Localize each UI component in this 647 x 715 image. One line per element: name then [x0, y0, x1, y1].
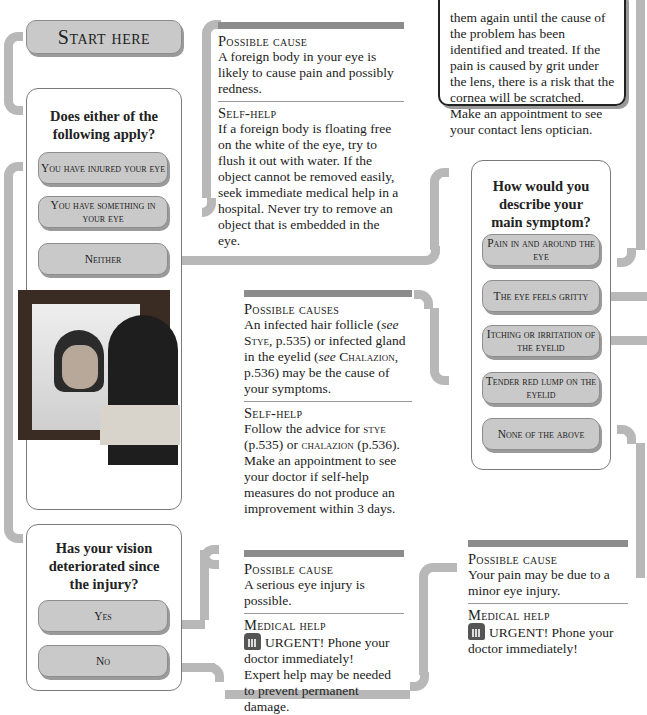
info-heading: Possible cause: [218, 33, 404, 49]
section-bar: [244, 550, 404, 557]
option-itching-eyelid[interactable]: Itching or irritation of the eyelid: [482, 325, 600, 357]
option-no[interactable]: No: [38, 645, 168, 677]
connector: [4, 162, 23, 181]
connector: [608, 336, 647, 345]
telephone-icon: [468, 623, 485, 640]
info-heading: Possible cause: [468, 551, 628, 567]
urgent-text: URGENT! Phone your doctor immediately!: [468, 625, 614, 656]
mirror-photo: [18, 290, 170, 440]
connector: [419, 563, 438, 582]
connector: [4, 50, 13, 100]
connector: [419, 580, 428, 675]
note-text: them again until the cause of the proble…: [450, 2, 616, 138]
question-3-title: Has your vision deteriorated since the i…: [41, 539, 167, 593]
info-text: A foreign body in your eye is likely to …: [218, 49, 404, 97]
connector: [617, 425, 636, 444]
connector: [617, 248, 636, 267]
question-2-title: How would you describe your main symptom…: [482, 177, 600, 231]
info-serious-injury: Possible cause A serious eye injury is p…: [244, 550, 404, 715]
info-text: If a foreign body is floating free on th…: [218, 121, 404, 249]
connector: [175, 256, 425, 265]
option-injured-eye[interactable]: You have injured your eye: [38, 152, 168, 184]
info-text: Your pain may be due to a minor eye inju…: [468, 567, 628, 599]
connector: [437, 563, 457, 572]
connector: [608, 292, 647, 301]
info-text: Follow the advice for stye (p.535) or ch…: [244, 421, 412, 517]
info-heading: Self-help: [244, 405, 412, 421]
urgent-text: URGENT! Phone your doctor immediately!: [244, 635, 390, 666]
connector: [200, 560, 209, 620]
connector: [636, 0, 645, 250]
info-foreign-body: Possible cause A foreign body in your ey…: [218, 22, 404, 249]
option-none-above[interactable]: None of the above: [482, 418, 600, 450]
info-minor-injury: Possible cause Your pain may be due to a…: [468, 540, 628, 657]
section-bar: [468, 540, 628, 547]
connector: [4, 180, 13, 528]
info-heading: Medical help: [244, 617, 404, 633]
connector: [202, 38, 211, 198]
info-stye-chalazion: Possible causes An infected hair follicl…: [244, 290, 412, 517]
connector: [205, 663, 224, 682]
info-heading: Possible cause: [244, 561, 404, 577]
section-bar: [244, 290, 412, 297]
connector: [430, 180, 439, 250]
option-pain-around-eye[interactable]: Pain in and around the eye: [482, 234, 600, 266]
option-tender-lump[interactable]: Tender red lump on the eyelid: [482, 372, 600, 404]
telephone-icon: [244, 633, 261, 650]
connector: [636, 443, 645, 578]
connector: [430, 308, 439, 368]
connector: [202, 198, 216, 217]
option-neither[interactable]: Neither: [38, 243, 168, 275]
info-text: A serious eye injury is possible.: [244, 577, 404, 609]
info-text: Expert help may be needed to prevent per…: [244, 667, 404, 715]
question-1-title: Does either of the following apply?: [41, 107, 167, 143]
connector: [4, 32, 23, 51]
section-bar: [218, 22, 404, 29]
start-here-button[interactable]: Start here: [26, 20, 182, 54]
info-heading: Self-help: [218, 105, 404, 121]
connector: [414, 290, 433, 309]
option-eye-gritty[interactable]: The eye feels gritty: [482, 280, 600, 312]
connector: [4, 524, 23, 543]
option-something-in-eye[interactable]: You have something in your eye: [38, 196, 168, 228]
info-text: An infected hair follicle (see Stye, p.5…: [244, 317, 412, 397]
connector: [430, 168, 449, 187]
connector: [430, 366, 449, 385]
info-heading: Medical help: [468, 607, 628, 623]
info-heading: Possible causes: [244, 301, 412, 317]
contact-lens-note: them again until the cause of the proble…: [438, 0, 626, 106]
option-yes[interactable]: Yes: [38, 600, 168, 632]
connector: [4, 96, 23, 115]
